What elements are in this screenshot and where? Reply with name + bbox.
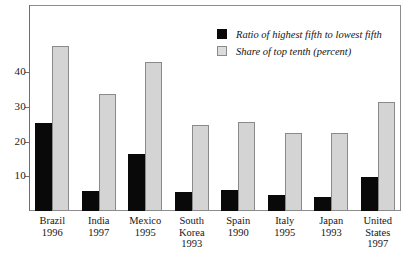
x-label-year: 1995: [122, 227, 169, 239]
x-label-country: United States: [355, 215, 402, 238]
x-label-year: 1990: [215, 227, 262, 239]
x-label-country: Spain: [215, 215, 262, 227]
bar-mexico-series-2: [145, 62, 162, 211]
x-axis-label-united-states: United States1997: [355, 215, 402, 250]
bar-italy-series-2: [285, 133, 302, 211]
bar-india-series-2: [99, 94, 116, 211]
x-label-country: India: [76, 215, 123, 227]
bar-japan-series-2: [331, 133, 348, 211]
bar-united-states-series-2: [378, 102, 395, 211]
bar-mexico-series-1: [128, 154, 145, 211]
y-axis-tick-label: 30: [2, 100, 26, 112]
x-label-country: Brazil: [29, 215, 76, 227]
x-axis-label-italy: Italy1995: [262, 215, 309, 238]
x-label-country: South Korea: [169, 215, 216, 238]
x-label-year: 1995: [262, 227, 309, 239]
x-label-country: Italy: [262, 215, 309, 227]
bar-india-series-1: [82, 191, 99, 211]
bar-japan-series-1: [314, 197, 331, 211]
legend-swatch-black-icon: [217, 29, 227, 39]
x-axis-label-spain: Spain1990: [215, 215, 262, 238]
x-label-year: 1993: [169, 238, 216, 250]
legend-swatch-gray-icon: [217, 46, 227, 56]
legend-label-ratio: Ratio of highest fifth to lowest fifth: [236, 29, 382, 40]
legend-item-ratio: Ratio of highest fifth to lowest fifth: [217, 27, 382, 41]
y-axis-tick-label: 20: [2, 135, 26, 147]
x-axis-label-india: India1997: [76, 215, 123, 238]
x-axis-label-south-korea: South Korea1993: [169, 215, 216, 250]
x-label-year: 1997: [76, 227, 123, 239]
x-label-country: Mexico: [122, 215, 169, 227]
x-label-country: Japan: [308, 215, 355, 227]
x-axis-label-brazil: Brazil1996: [29, 215, 76, 238]
x-axis-label-mexico: Mexico1995: [122, 215, 169, 238]
bar-spain-series-1: [221, 190, 238, 211]
x-label-year: 1996: [29, 227, 76, 239]
legend-item-share: Share of top tenth (percent): [217, 44, 382, 58]
bar-south-korea-series-1: [175, 192, 192, 211]
bar-spain-series-2: [238, 122, 255, 211]
x-label-year: 1993: [308, 227, 355, 239]
bar-united-states-series-1: [361, 177, 378, 211]
bar-south-korea-series-2: [192, 125, 209, 211]
x-label-year: 1997: [355, 238, 402, 250]
y-axis-tick-label: 10: [2, 169, 26, 181]
bar-italy-series-1: [268, 195, 285, 211]
legend-label-share: Share of top tenth (percent): [236, 46, 351, 57]
bar-brazil-series-2: [52, 46, 69, 211]
y-axis-tick-label: 40: [2, 65, 26, 77]
bar-brazil-series-1: [35, 123, 52, 211]
bar-chart: 10203040 Brazil1996India1997Mexico1995So…: [0, 0, 411, 272]
x-axis-label-japan: Japan1993: [308, 215, 355, 238]
legend: Ratio of highest fifth to lowest fifth S…: [217, 27, 382, 61]
